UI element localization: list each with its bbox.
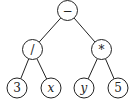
tree-node-mul: * — [92, 40, 112, 60]
tree-node-ny: y — [74, 78, 94, 98]
node-label: y — [80, 81, 88, 95]
node-label: 3 — [13, 81, 21, 95]
tree-node-n3: 3 — [7, 78, 27, 98]
edge-mul-ny — [88, 59, 97, 79]
expression-tree-diagram: −/*3xy5 — [0, 0, 133, 102]
tree-node-n5: 5 — [108, 78, 128, 98]
tree-node-nx: x — [41, 78, 61, 98]
edge-root-div — [39, 18, 61, 42]
edge-div-nx — [37, 59, 47, 79]
edge-mul-n5 — [105, 59, 114, 79]
tree-node-root: − — [58, 1, 78, 21]
edge-root-mul — [74, 18, 95, 42]
edge-div-n3 — [21, 59, 29, 79]
tree-node-div: / — [23, 40, 43, 60]
node-label: − — [62, 4, 72, 18]
node-label: 5 — [114, 81, 122, 95]
nodes: −/*3xy5 — [7, 1, 128, 99]
node-label: x — [48, 81, 55, 95]
node-label: * — [99, 43, 105, 57]
